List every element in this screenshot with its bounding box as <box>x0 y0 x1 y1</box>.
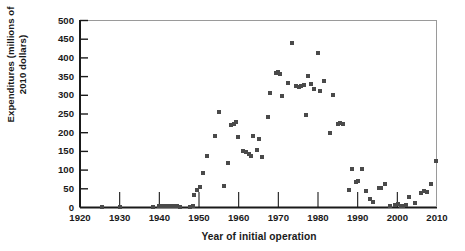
scatter-point <box>198 185 202 189</box>
scatter-point <box>306 74 310 78</box>
scatter-point <box>151 205 155 209</box>
scatter-point <box>226 161 230 165</box>
scatter-point <box>413 201 417 205</box>
scatter-point <box>425 190 429 194</box>
scatter-point <box>260 155 264 159</box>
scatter-point <box>429 182 433 186</box>
scatter-point <box>251 134 255 138</box>
scatter-point <box>257 137 261 141</box>
scatter-point <box>217 110 221 114</box>
scatter-point <box>331 93 335 97</box>
x-tick-label: 2010 <box>417 212 457 223</box>
x-tick-label: 1960 <box>219 212 259 223</box>
x-tick-label: 2000 <box>377 212 417 223</box>
scatter-point <box>379 186 383 190</box>
scatter-point <box>316 51 320 55</box>
x-tick-label: 1980 <box>298 212 338 223</box>
y-tick-label: 200 <box>44 127 74 138</box>
x-tick-label: 1950 <box>179 212 219 223</box>
y-tick-label: 50 <box>44 183 74 194</box>
scatter-point <box>286 81 290 85</box>
scatter-point <box>341 122 345 126</box>
scatter-point <box>201 171 205 175</box>
scatter-point <box>236 135 240 139</box>
scatter-point <box>350 167 354 171</box>
scatter-point <box>266 115 270 119</box>
y-tick-label: 450 <box>44 33 74 44</box>
scatter-point <box>388 204 392 208</box>
scatter-point <box>192 193 196 197</box>
scatter-point <box>364 189 368 193</box>
scatter-point <box>205 154 209 158</box>
scatter-point <box>222 184 226 188</box>
scatter-point <box>191 204 195 208</box>
y-tick-label: 350 <box>44 71 74 82</box>
x-tick-label: 1970 <box>258 212 298 223</box>
scatter-point <box>290 41 294 45</box>
y-tick-label: 500 <box>44 15 74 26</box>
scatter-point <box>268 91 272 95</box>
scatter-point <box>249 154 253 158</box>
x-tick-label: 1930 <box>100 212 140 223</box>
scatter-point <box>213 134 217 138</box>
scatter-point <box>302 83 306 87</box>
scatter-point <box>312 87 316 91</box>
scatter-point <box>234 120 238 124</box>
scatter-point <box>255 148 259 152</box>
y-axis-ticks <box>80 21 88 208</box>
axis-lines <box>80 20 437 208</box>
y-tick-label: 250 <box>44 108 74 119</box>
scatter-point <box>309 82 313 86</box>
scatter-point <box>404 203 408 207</box>
scatter-point <box>318 89 322 93</box>
scatter-point <box>347 188 351 192</box>
scatter-point <box>178 205 182 209</box>
y-tick-label: 100 <box>44 164 74 175</box>
scatter-point <box>100 205 104 209</box>
x-tick-label: 1990 <box>338 212 378 223</box>
scatter-point <box>360 167 364 171</box>
scatter-point <box>371 200 375 204</box>
scatter-point <box>434 159 438 163</box>
scatter-chart-figure: Expenditures (millions of 2010 dollars) … <box>0 0 465 251</box>
scatter-point <box>304 113 308 117</box>
x-tick-label: 1940 <box>139 212 179 223</box>
y-tick-label: 400 <box>44 52 74 63</box>
scatter-point <box>322 79 326 83</box>
scatter-point <box>356 179 360 183</box>
scatter-point <box>118 205 122 209</box>
scatter-point <box>407 195 411 199</box>
scatter-point <box>280 94 284 98</box>
x-tick-label: 1920 <box>60 212 100 223</box>
scatter-point <box>278 72 282 76</box>
y-tick-label: 150 <box>44 145 74 156</box>
scatter-point <box>328 131 332 135</box>
scatter-point <box>383 182 387 186</box>
y-tick-label: 300 <box>44 89 74 100</box>
